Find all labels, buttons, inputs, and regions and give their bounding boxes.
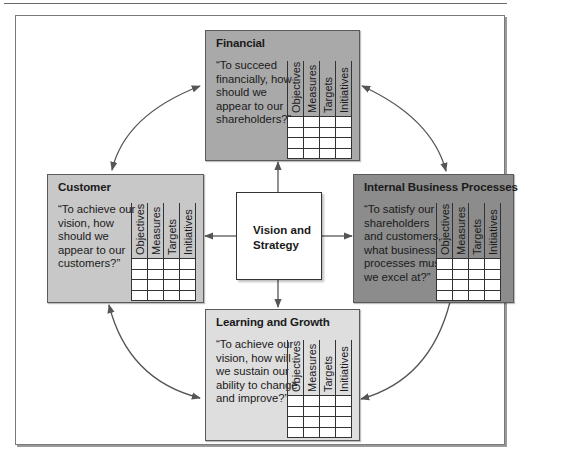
customer-perspective-box: Customer “To achieve our vision, how sho…: [47, 174, 204, 303]
internal-scorecard-grid: Objectives Measures Targets Initiatives: [436, 203, 501, 301]
learning-scorecard-grid: Objectives Measures Targets Initiatives: [287, 340, 352, 438]
grid-row: [437, 259, 501, 270]
arrow-financial-internal: [362, 86, 446, 171]
col-header-objectives: Objectives: [132, 203, 148, 259]
grid-row: [288, 427, 352, 438]
col-header-measures: Measures: [304, 340, 320, 396]
vision-strategy-label: Vision and Strategy: [253, 223, 321, 253]
internal-processes-perspective-box: Internal Business Processes “To satisfy …: [353, 174, 514, 303]
grid-row: [132, 290, 196, 301]
col-header-measures: Measures: [148, 203, 164, 259]
grid-row: [437, 269, 501, 280]
col-header-initiatives: Initiatives: [485, 203, 501, 259]
col-header-objectives: Objectives: [288, 340, 304, 396]
learning-question: “To achieve our vision, how will we sust…: [216, 338, 298, 406]
grid-row: [288, 406, 352, 417]
financial-perspective-box: Financial “To succeed financially, how s…: [205, 30, 360, 161]
col-header-targets: Targets: [469, 203, 485, 259]
financial-scorecard-grid: Objectives Measures Targets Initiatives: [287, 61, 352, 159]
grid-row: [288, 417, 352, 428]
grid-row: [288, 117, 352, 128]
arrow-financial-customer: [112, 86, 200, 170]
col-header-targets: Targets: [320, 340, 336, 396]
grid-row: [288, 148, 352, 159]
col-header-targets: Targets: [320, 61, 336, 117]
customer-question: “To achieve our vision, how should we ap…: [58, 203, 140, 271]
col-header-measures: Measures: [453, 203, 469, 259]
financial-title: Financial: [216, 37, 265, 49]
grid-row: [288, 138, 352, 149]
col-header-objectives: Objectives: [288, 61, 304, 117]
arrow-internal-learning: [361, 302, 450, 399]
grid-row: [132, 280, 196, 291]
learning-growth-perspective-box: Learning and Growth “To achieve our visi…: [205, 309, 360, 441]
internal-title: Internal Business Processes: [364, 181, 518, 193]
col-header-initiatives: Initiatives: [336, 340, 352, 396]
grid-row: [437, 290, 501, 301]
col-header-initiatives: Initiatives: [336, 61, 352, 117]
financial-question: “To succeed financially, how should we a…: [216, 59, 298, 127]
customer-title: Customer: [58, 181, 111, 193]
col-header-targets: Targets: [164, 203, 180, 259]
learning-title: Learning and Growth: [216, 316, 330, 328]
grid-row: [288, 127, 352, 138]
arrow-customer-learning: [109, 305, 200, 398]
customer-scorecard-grid: Objectives Measures Targets Initiatives: [131, 203, 196, 301]
col-header-objectives: Objectives: [437, 203, 453, 259]
grid-row: [437, 280, 501, 291]
grid-row: [132, 269, 196, 280]
vision-strategy-box: Vision and Strategy: [236, 192, 322, 280]
grid-row: [132, 259, 196, 270]
grid-row: [288, 396, 352, 407]
col-header-initiatives: Initiatives: [180, 203, 196, 259]
col-header-measures: Measures: [304, 61, 320, 117]
